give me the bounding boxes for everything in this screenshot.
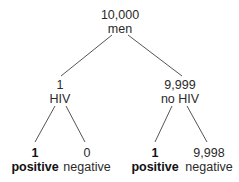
root-node: 10,000 men [80, 8, 160, 36]
no-hiv-count: 9,999 [140, 78, 220, 92]
edge-no-hiv-to-negative [187, 106, 207, 142]
leaf-label: negative [169, 160, 239, 174]
no-hiv-label: no HIV [140, 92, 220, 106]
hiv-count: 1 [20, 78, 100, 92]
edge-hiv-to-negative [66, 106, 85, 142]
edge-hiv-to-positive [35, 106, 55, 142]
hiv-label: HIV [20, 92, 100, 106]
hiv-node: 1 HIV [20, 78, 100, 106]
leaf-count: 9,998 [169, 146, 239, 160]
root-count: 10,000 [80, 8, 160, 22]
leaf-no-hiv-negative: 9,998 negative [169, 146, 239, 174]
edge-root-to-no-hiv [128, 35, 182, 76]
edge-no-hiv-to-positive [155, 106, 172, 142]
edge-root-to-hiv [61, 35, 112, 76]
no-hiv-node: 9,999 no HIV [140, 78, 220, 106]
root-label: men [80, 22, 160, 36]
